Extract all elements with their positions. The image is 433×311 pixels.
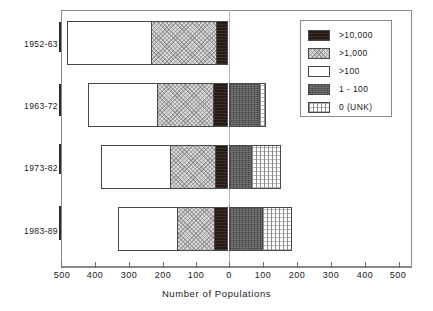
legend-label-1to100: 1 - 100 xyxy=(339,84,368,94)
bar-segment-gt10000 xyxy=(215,145,228,189)
legend-label-gt100: >100 xyxy=(339,66,360,76)
x-axis-tick-mark xyxy=(297,262,298,268)
y-axis-tick-mark xyxy=(59,84,61,116)
bar-segment-gt1000 xyxy=(157,83,214,127)
legend-swatch-gt10000-icon xyxy=(308,30,330,41)
x-axis-tick-label: 500 xyxy=(390,270,407,280)
legend-item-unk: 0 (UNK) xyxy=(308,100,373,114)
legend-item-1to100: 1 - 100 xyxy=(308,82,368,96)
x-axis-tick-mark xyxy=(163,262,164,268)
x-axis-tick-mark xyxy=(331,262,332,268)
x-axis-title: Number of Populations xyxy=(0,288,433,299)
legend-swatch-gt1000-icon xyxy=(308,48,330,59)
y-axis-category-labels: 1952-63 1963-72 1973-82 1983-89 xyxy=(0,0,58,311)
horizontal-stacked-bar-chart: 1952-63 1963-72 1973-82 1983-89 xyxy=(0,0,433,311)
y-axis-tick-mark xyxy=(59,144,61,174)
legend-item-gt1000: >1,000 xyxy=(308,46,368,60)
bar-segment-unk xyxy=(262,207,292,251)
legend-label-gt10000: >10,000 xyxy=(339,30,373,40)
x-axis-tick-mark xyxy=(229,262,230,268)
y-axis-label-1983-89: 1983-89 xyxy=(0,226,58,236)
bar-segment-gt100 xyxy=(101,145,171,189)
x-axis-tick-label: 200 xyxy=(155,270,172,280)
bar-segment-gt1000 xyxy=(151,21,217,65)
x-axis-tick-label: 200 xyxy=(289,270,306,280)
x-axis-tick-label: 400 xyxy=(357,270,374,280)
bar-right-1973-82 xyxy=(229,145,281,189)
bar-segment-gt100 xyxy=(88,83,158,127)
bar-segment-1to100 xyxy=(229,145,252,189)
bar-segment-unk xyxy=(259,83,266,127)
legend-swatch-unk-icon xyxy=(308,102,330,113)
x-axis-tick-label: 300 xyxy=(323,270,340,280)
x-axis-tick-label: 400 xyxy=(87,270,104,280)
y-axis-label-1952-63: 1952-63 xyxy=(0,39,58,49)
x-axis-tick-mark xyxy=(196,262,197,268)
x-axis-tick-label: 300 xyxy=(121,270,138,280)
x-axis-tick-mark xyxy=(263,262,264,268)
x-axis-tick-mark xyxy=(129,262,130,268)
x-axis-title-text: Number of Populations xyxy=(162,288,271,299)
y-axis-label-1973-82: 1973-82 xyxy=(0,163,58,173)
bar-right-1983-89 xyxy=(229,207,292,251)
legend-swatch-1to100-icon xyxy=(308,84,330,95)
y-axis-tick-mark xyxy=(59,22,61,52)
bar-segment-1to100 xyxy=(229,83,260,127)
bar-segment-gt10000 xyxy=(213,83,228,127)
legend-swatch-gt100-icon xyxy=(308,66,330,77)
x-axis-tick-mark xyxy=(399,262,400,268)
x-axis-tick-label: 100 xyxy=(188,270,205,280)
x-axis-tick-label: 0 xyxy=(226,270,232,280)
bar-segment-gt100 xyxy=(67,21,152,65)
legend-item-gt10000: >10,000 xyxy=(308,28,373,42)
bar-left-1983-89 xyxy=(118,207,229,251)
bar-segment-gt10000 xyxy=(214,207,228,251)
x-axis-tick-mark xyxy=(95,262,96,268)
x-axis-line xyxy=(61,267,412,268)
bar-left-1973-82 xyxy=(101,145,229,189)
x-axis-tick-label: 100 xyxy=(255,270,272,280)
bar-segment-gt1000 xyxy=(177,207,215,251)
bar-segment-gt10000 xyxy=(216,21,228,65)
bar-right-1963-72 xyxy=(229,83,266,127)
legend-label-unk: 0 (UNK) xyxy=(339,102,373,112)
legend-item-gt100: >100 xyxy=(308,64,360,78)
legend-label-gt1000: >1,000 xyxy=(339,48,368,58)
y-axis-tick-mark xyxy=(59,206,61,240)
bar-segment-gt100 xyxy=(118,207,178,251)
bar-left-1952-63 xyxy=(67,21,229,65)
bar-segment-unk xyxy=(251,145,281,189)
bar-left-1963-72 xyxy=(88,83,229,127)
x-axis-tick-mark xyxy=(61,262,62,268)
y-axis-label-1963-72: 1963-72 xyxy=(0,101,58,111)
legend: >10,000 >1,000 >100 1 - 100 0 (UNK) xyxy=(300,20,392,117)
bar-segment-gt1000 xyxy=(170,145,216,189)
bar-segment-1to100 xyxy=(229,207,263,251)
x-axis-tick-label: 500 xyxy=(54,270,71,280)
x-axis-tick-mark xyxy=(365,262,366,268)
